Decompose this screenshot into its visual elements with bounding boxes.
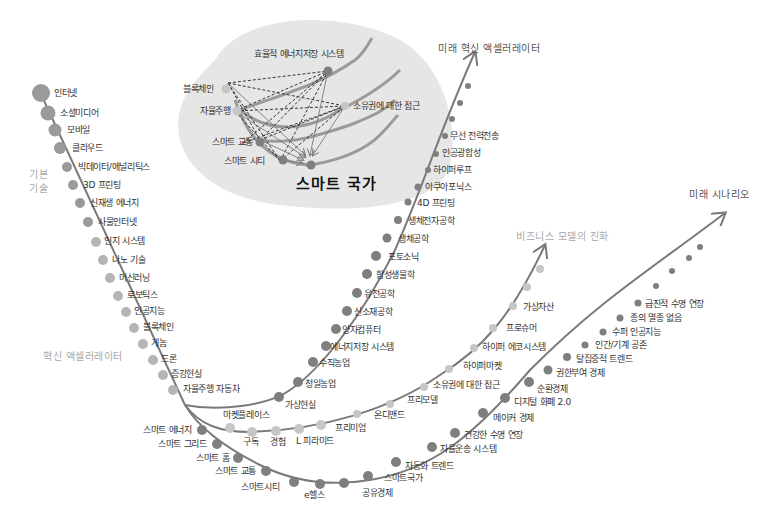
future-accelerator-label: 4D 프린팅 <box>417 198 455 209</box>
future-accelerator-label: 생체공학 <box>398 234 429 245</box>
inset-label-energy-storage: 효율적 에너지저장 시스템 <box>254 49 344 60</box>
future-accelerator-label: 양자컴퓨터 <box>342 325 381 336</box>
future-scenario-label: 탈집중적 트렌드 <box>576 354 632 365</box>
future-accelerator-label: 가상현실 <box>285 400 316 411</box>
business-model-label: 프리모델 <box>407 395 438 406</box>
future-scenario-label: 인간/기계 공존 <box>595 340 647 351</box>
basic-tech-label: 클라우드 <box>72 143 103 154</box>
basic-tech-label: 블록체인 <box>143 322 174 333</box>
section-basic-tech-line1: 기본 <box>29 168 48 182</box>
section-innovation-accelerator: 혁신 액셀러레이터 <box>43 348 123 363</box>
future-scenario-label: 스마트시티 <box>241 482 280 493</box>
future-accelerator-label: 에너지저장 시스템 <box>330 342 394 353</box>
business-model-label: L 피라미드 <box>296 436 334 447</box>
business-model-label: 하이퍼 에코시스템 <box>482 342 546 353</box>
future-accelerator-label: 수직농업 <box>319 358 350 369</box>
basic-tech-label: 증강현실 <box>171 369 202 380</box>
section-basic-tech-line2: 기술 <box>29 182 48 196</box>
business-model-label: 가상자산 <box>523 302 554 313</box>
basic-tech-label: 신재생 에너지 <box>90 198 139 209</box>
future-accelerator-label: 인공광합성 <box>442 148 481 159</box>
future-accelerator-label: 합성생물학 <box>376 270 415 281</box>
section-future-scenario: 미래 시나리오 <box>689 186 750 201</box>
basic-tech-label: 나노 기술 <box>112 255 145 266</box>
basic-tech-label: 모바일 <box>67 125 90 136</box>
future-accelerator-label: 신소재공학 <box>354 307 393 318</box>
future-scenario-label: 자동화 트렌드 <box>405 461 454 472</box>
inset-label-blockchain: 블록체인 <box>183 84 214 95</box>
inset-label-autonomous: 자율주행 <box>200 106 231 117</box>
future-accelerator-label: 무선 전력전송 <box>450 131 499 142</box>
basic-tech-label: 머신러닝 <box>119 273 150 284</box>
section-future-innovation-accelerator: 미래 혁신 액셀러레이터 <box>438 40 540 55</box>
future-accelerator-label: 청일농업 <box>305 379 336 390</box>
business-model-label: 소유권에 대한 접근 <box>433 380 500 391</box>
future-scenario-label: 수퍼 인공지능 <box>612 327 661 338</box>
future-scenario-label: 권한부여 경제 <box>556 368 605 379</box>
section-business-model-evolution: 비즈니스 모델의 진화 <box>516 228 609 243</box>
future-scenario-label: 스마트 교통 <box>215 466 256 477</box>
basic-tech-label: 드론 <box>161 354 176 365</box>
future-accelerator-label: 아쿠아포닉스 <box>425 182 471 193</box>
future-scenario-label: e헬스 <box>304 490 325 501</box>
basic-tech-label: 인지 시스템 <box>104 236 145 247</box>
basic-tech-label: 소셜미디어 <box>60 108 99 119</box>
basic-tech-label: 인공지능 <box>134 306 165 317</box>
basic-tech-label: 자율주행 자동차 <box>183 384 239 395</box>
future-scenario-label: 공유경제 <box>362 488 393 499</box>
inset-title-smart-nation: 스마트 국가 <box>296 172 377 193</box>
business-model-label: 프로슈머 <box>506 323 537 334</box>
future-scenario-label: 건강한 수명 연장 <box>464 430 523 441</box>
future-scenario-label: 종의 멸종 없음 <box>630 313 681 324</box>
inset-label-access-ownership: 소유권에 대한 접근 <box>353 101 420 112</box>
future-accelerator-label: 생체전자공학 <box>408 216 454 227</box>
future-scenario-label: 스마트 에너지 <box>143 425 192 436</box>
basic-tech-label: 사물인터넷 <box>98 217 137 228</box>
future-accelerator-label: 포토소닉 <box>388 252 419 263</box>
business-model-label: 경험 <box>270 437 285 448</box>
basic-tech-label: 게놈 <box>151 338 166 349</box>
business-model-label: 마켓플레이스 <box>223 410 269 421</box>
basic-tech-label: 로보틱스 <box>127 290 158 301</box>
business-model-label: 구독 <box>243 437 258 448</box>
future-scenario-label: 순환경제 <box>537 384 568 395</box>
future-scenario-label: 자율운송 시스템 <box>440 444 496 455</box>
basic-tech-label: 빅데이터/애널리틱스 <box>78 162 150 173</box>
basic-tech-label: 3D 프린팅 <box>83 180 121 191</box>
inset-label-smart-city: 스마트 시티 <box>224 156 265 167</box>
future-scenario-label: 급진적 수명 연장 <box>645 299 704 310</box>
basic-tech-label: 인터넷 <box>54 88 77 99</box>
inset-label-smart-traffic: 스마트 교통 <box>212 137 253 148</box>
future-accelerator-label: 하이퍼루프 <box>433 165 472 176</box>
future-scenario-label: 스마트국가 <box>384 473 423 484</box>
business-model-label: 프리미엄 <box>335 423 366 434</box>
business-model-label: 온디맨드 <box>374 410 405 421</box>
future-scenario-label: 스마트 그리드 <box>158 439 207 450</box>
business-model-label: 하이퍼마켓 <box>463 361 502 372</box>
future-accelerator-label: 유전공학 <box>364 289 395 300</box>
future-scenario-label: 스마트 홈 <box>196 453 229 464</box>
section-basic-tech: 기본 기술 <box>29 168 48 196</box>
future-scenario-label: 메이커 경제 <box>493 413 534 424</box>
future-scenario-label: 디지털 화폐 2.0 <box>514 397 571 408</box>
